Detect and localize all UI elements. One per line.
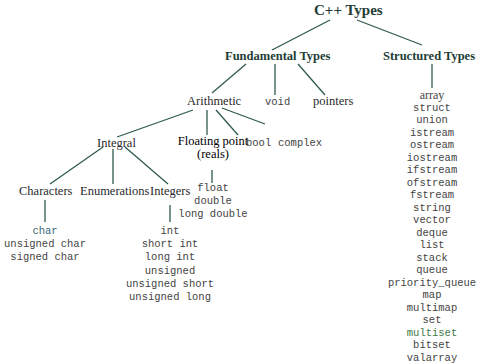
list-item: valarray: [382, 352, 482, 364]
node-bool: bool: [246, 137, 271, 149]
list-item: queue: [382, 264, 482, 277]
list-item: unsigned short: [120, 278, 220, 291]
character-types-list: char unsigned char signed char: [0, 225, 90, 265]
list-item: map: [382, 289, 482, 302]
list-item: istream: [382, 127, 482, 140]
list-item: bitset: [382, 339, 482, 352]
list-item: short int: [120, 238, 220, 251]
node-integral: Integral: [97, 136, 136, 151]
list-item: stack: [382, 252, 482, 265]
list-item: set: [382, 314, 482, 327]
list-item: double: [177, 195, 249, 208]
list-item: unsigned: [120, 265, 220, 278]
list-item: multiset: [382, 327, 482, 340]
list-item: struct: [382, 102, 482, 115]
node-arithmetic: Arithmetic: [187, 94, 241, 109]
list-item: multimap: [382, 302, 482, 315]
list-item: string: [382, 202, 482, 215]
list-item: list: [382, 239, 482, 252]
node-pointers: pointers: [313, 94, 353, 109]
node-structured-types: Structured Types: [383, 49, 475, 64]
list-item: float: [177, 182, 249, 195]
list-item: array: [382, 89, 482, 102]
list-item: ostream: [382, 139, 482, 152]
list-item: signed char: [0, 251, 90, 264]
floating-types-list: float double long double: [177, 182, 249, 222]
node-complex: complex: [278, 137, 322, 149]
reals-label: (reals): [172, 148, 254, 161]
list-item: long double: [177, 208, 249, 221]
list-item: iostream: [382, 152, 482, 165]
node-enumerations: Enumerations: [80, 184, 149, 199]
list-item: long int: [120, 251, 220, 264]
node-fundamental-types: Fundamental Types: [225, 49, 330, 64]
node-floating-point: Floating point (reals): [172, 135, 254, 161]
node-characters: Characters: [19, 184, 72, 199]
structured-types-list: array struct union istream ostream iostr…: [382, 89, 482, 364]
list-item: char: [0, 225, 90, 238]
list-item: int: [120, 225, 220, 238]
list-item: vector: [382, 214, 482, 227]
list-item: ofstream: [382, 177, 482, 190]
list-item: fstream: [382, 189, 482, 202]
integer-types-list: int short int long int unsigned unsigned…: [120, 225, 220, 304]
list-item: unsigned long: [120, 291, 220, 304]
list-item: ifstream: [382, 164, 482, 177]
root-node-title: C++ Types: [314, 2, 383, 19]
node-void: void: [265, 96, 290, 108]
list-item: union: [382, 114, 482, 127]
list-item: priority_queue: [382, 277, 482, 290]
list-item: deque: [382, 227, 482, 240]
list-item: unsigned char: [0, 238, 90, 251]
